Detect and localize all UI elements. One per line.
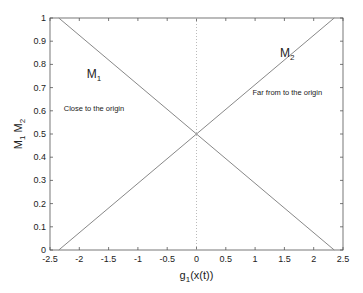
x-tick-label: 0.5 — [220, 254, 233, 264]
y-tick-label: 0.6 — [33, 106, 46, 116]
y-tick-label: 0.3 — [33, 175, 46, 185]
x-tick-label: 1.5 — [278, 254, 291, 264]
y-tick-label: 0.2 — [33, 199, 46, 209]
x-axis: -2.5-2-1.5-1-0.500.511.522.5 — [42, 18, 349, 264]
annotation-text: Close to the origin — [64, 104, 124, 113]
y-tick-label: 0.4 — [33, 152, 46, 162]
x-tick-label: 1 — [253, 254, 258, 264]
annotations: M1Close to the originM2Far from to the o… — [64, 46, 322, 112]
x-tick-label: -1.5 — [101, 254, 117, 264]
y-tick-label: 0.5 — [33, 129, 46, 139]
y-tick-label: 1 — [41, 13, 46, 23]
annotation-text: Far from to the origin — [253, 88, 323, 97]
x-tick-label: 0 — [194, 254, 199, 264]
x-tick-label: -2 — [75, 254, 83, 264]
x-axis-label: g1(x(t)) — [180, 269, 214, 284]
y-tick-label: 0.1 — [33, 222, 46, 232]
annotation-m1: M1 — [87, 67, 102, 83]
chart: 00.10.20.30.40.50.60.70.80.91 -2.5-2-1.5… — [0, 0, 363, 293]
y-axis-label: M1 M2 — [12, 118, 27, 149]
annotation-m2: M2 — [280, 46, 295, 62]
y-tick-label: 0.8 — [33, 59, 46, 69]
y-tick-label: 0.9 — [33, 36, 46, 46]
x-tick-label: -1 — [134, 254, 142, 264]
x-tick-label: 2 — [311, 254, 316, 264]
x-tick-label: -0.5 — [159, 254, 175, 264]
x-tick-label: -2.5 — [42, 254, 58, 264]
y-tick-label: 0.7 — [33, 83, 46, 93]
x-tick-label: 2.5 — [337, 254, 350, 264]
